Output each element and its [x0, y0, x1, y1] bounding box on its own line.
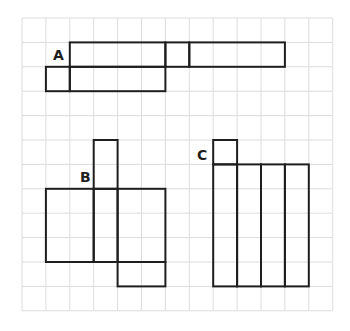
shape-a-faces	[46, 42, 285, 91]
net-face	[261, 164, 285, 286]
net-face	[46, 67, 70, 91]
shape-a-label: A	[53, 47, 64, 63]
net-face	[165, 42, 189, 66]
grid-diagram: A B C	[0, 0, 350, 331]
shape-b-label: B	[80, 169, 91, 185]
shape-a: A	[46, 42, 285, 91]
net-face	[237, 164, 261, 286]
net-face	[285, 164, 309, 286]
shape-c-label: C	[197, 147, 207, 163]
net-face	[94, 189, 118, 262]
net-face	[213, 164, 237, 286]
net-face	[213, 140, 237, 164]
